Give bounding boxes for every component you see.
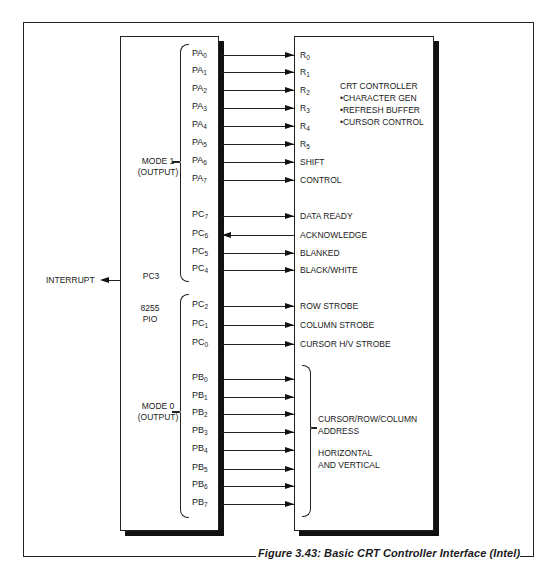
pin-name: PB (192, 372, 204, 382)
bus-label-line2: ADDRESS (318, 425, 417, 437)
bus-brace-tip-bottom (310, 428, 317, 430)
pin-name: PC (192, 228, 205, 238)
arrow-right-icon (285, 141, 294, 147)
arrow-right-icon (285, 411, 294, 417)
pio-pin-label: PA4 (192, 119, 207, 132)
arrow-right-icon (285, 376, 294, 382)
pio-pin-label: PB3 (192, 425, 208, 438)
pio-pin-label: PB0 (192, 372, 208, 385)
figure-caption: Figure 3.43: Basic CRT Controller Interf… (258, 547, 520, 559)
signal-index: 1 (306, 71, 310, 78)
pio-pin-label: PA6 (192, 155, 207, 168)
figure-frame-right (533, 22, 534, 557)
pin-name: PA (192, 65, 203, 75)
signal-wire (222, 379, 294, 380)
arrow-right-icon (285, 87, 294, 93)
pin-index: 7 (204, 501, 208, 508)
crt-signal-label: COLUMN STROBE (300, 320, 374, 330)
signal-wire (222, 270, 294, 271)
crt-signal-label: R5 (300, 139, 310, 152)
crt-signal-label: SHIFT (300, 157, 325, 167)
pin-index: 7 (203, 177, 207, 184)
pin-name: PA (192, 101, 203, 111)
pin-name: PA (192, 119, 203, 129)
figure-frame-bottom-end (520, 556, 534, 557)
signal-wire (222, 90, 294, 91)
crt-signal-label: CONTROL (300, 175, 342, 185)
crt-signal-label: R2 (300, 85, 310, 98)
signal-name: DATA READY (300, 211, 353, 221)
arrow-right-icon (285, 52, 294, 58)
signal-wire (222, 344, 294, 345)
pin-name: PA (192, 48, 203, 58)
pio-pin-label: PB5 (192, 462, 208, 475)
crt-signal-label: BLACK/WHITE (300, 265, 358, 275)
crt-feature-refresh-buffer: •REFRESH BUFFER (340, 104, 424, 116)
interrupt-label: INTERRUPT (46, 275, 102, 286)
pin-name: PC (192, 263, 205, 273)
mode1-brace-lower (180, 163, 189, 282)
mode0-brace-icon (180, 294, 189, 411)
crt-signal-label: R3 (300, 103, 310, 116)
pio-pin-label: PA0 (192, 48, 207, 61)
signal-wire (222, 126, 294, 127)
signal-wire (222, 504, 294, 505)
crt-signal-label: CURSOR H/V STROBE (300, 339, 391, 349)
pin-index: 1 (204, 394, 208, 401)
pin-index: 1 (203, 69, 207, 76)
pio-pin-label: PA1 (192, 65, 207, 78)
figure-frame-top (23, 22, 534, 23)
crt-signal-label: R0 (300, 50, 310, 63)
bus-label-line4: AND VERTICAL (318, 459, 417, 471)
arrow-right-icon (285, 267, 294, 273)
pin-index: 3 (203, 105, 207, 112)
interrupt-wire (108, 280, 120, 281)
signal-index: 2 (306, 89, 310, 96)
pin-name: PC (192, 299, 205, 309)
pio-pin-label: PC4 (192, 263, 208, 276)
pin-index: 2 (204, 411, 208, 418)
pin-index: 3 (204, 429, 208, 436)
signal-wire (222, 253, 294, 254)
pio-pin-label: PA7 (192, 173, 207, 186)
pin-index: 0 (205, 341, 209, 348)
arrow-right-icon (285, 177, 294, 183)
signal-wire (222, 144, 294, 145)
pin-index: 6 (203, 159, 207, 166)
signal-index: 4 (306, 125, 310, 132)
arrow-right-icon (285, 429, 294, 435)
arrow-right-icon (285, 394, 294, 400)
signal-index: 0 (306, 54, 310, 61)
signal-wire (222, 469, 294, 470)
pio-pin-label: PB2 (192, 407, 208, 420)
arrow-right-icon (285, 159, 294, 165)
pio-pin-label: PC0 (192, 337, 208, 350)
mode1-brace-icon (180, 44, 189, 161)
crt-signal-label: DATA READY (300, 211, 353, 221)
pin-name: PA (192, 155, 203, 165)
arrow-right-icon (285, 303, 294, 309)
figure-frame-bottom (23, 556, 256, 557)
arrow-right-icon (285, 501, 294, 507)
crt-feature-cursor-control: •CURSOR CONTROL (340, 116, 424, 128)
pio-pin-label: PC1 (192, 318, 208, 331)
signal-wire (222, 162, 294, 163)
signal-wire (222, 108, 294, 109)
crt-signal-label: ROW STROBE (300, 301, 358, 311)
pin-index: 2 (203, 87, 207, 94)
pin-name: PB (192, 390, 204, 400)
arrow-right-icon (285, 69, 294, 75)
bus-description: CURSOR/ROW/COLUMN ADDRESS HORIZONTAL AND… (318, 413, 417, 471)
pin-name: PB (192, 425, 204, 435)
signal-name: BLANKED (300, 248, 340, 258)
pin-index: 5 (204, 466, 208, 473)
interrupt-arrow-icon (100, 277, 109, 283)
pin-name: PC (192, 246, 205, 256)
arrow-right-icon (285, 213, 294, 219)
pin-index: 5 (203, 141, 207, 148)
pin-name: PC (192, 318, 205, 328)
signal-index: 5 (306, 143, 310, 150)
signal-wire (222, 235, 294, 236)
mode0-brace-lower (180, 413, 189, 518)
signal-wire (222, 486, 294, 487)
